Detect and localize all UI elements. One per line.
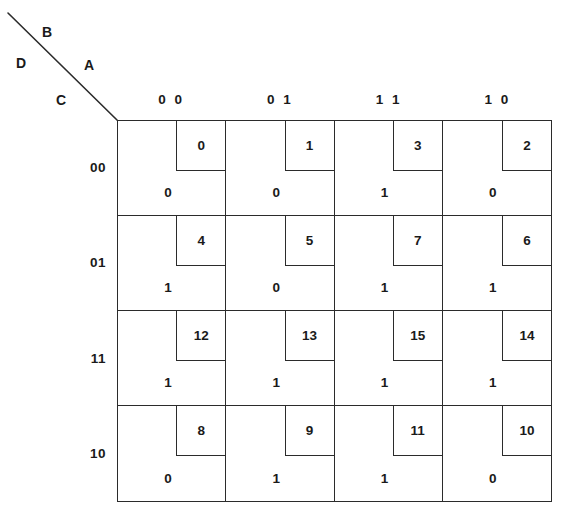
minterm-index-0: 0 (197, 139, 205, 153)
kmap-cell-11[interactable]: 111 (335, 406, 443, 501)
row-header-0: 00 (58, 161, 106, 175)
minterm-index-5: 5 (306, 234, 314, 248)
minterm-box-3: 3 (393, 121, 442, 171)
kmap-cell-5[interactable]: 50 (226, 216, 334, 311)
karnaugh-grid: 00103120415071611211311511418091111100 (117, 120, 552, 502)
minterm-index-11: 11 (411, 424, 425, 438)
kmap-cell-1[interactable]: 10 (226, 121, 334, 216)
cell-value-8: 0 (118, 472, 218, 486)
variable-label-b: B (42, 25, 52, 39)
minterm-index-1: 1 (306, 139, 314, 153)
minterm-box-4: 4 (176, 216, 225, 266)
minterm-index-15: 15 (410, 329, 425, 343)
kmap-cell-7[interactable]: 71 (335, 216, 443, 311)
karnaugh-map-page: B D A C 0 00 11 11 0 00011110 0010312041… (0, 0, 561, 517)
minterm-index-13: 13 (302, 329, 317, 343)
kmap-cell-4[interactable]: 41 (118, 216, 226, 311)
cell-value-3: 1 (335, 186, 435, 200)
minterm-index-6: 6 (523, 234, 531, 248)
minterm-box-0: 0 (176, 121, 225, 171)
column-header-0: 0 0 (117, 93, 226, 107)
minterm-box-10: 10 (502, 406, 551, 456)
minterm-box-6: 6 (502, 216, 551, 266)
column-header-1: 0 1 (226, 93, 335, 107)
cell-value-5: 0 (226, 281, 326, 295)
kmap-cell-8[interactable]: 80 (118, 406, 226, 501)
minterm-box-1: 1 (285, 121, 334, 171)
minterm-box-14: 14 (502, 311, 551, 361)
cell-value-4: 1 (118, 281, 218, 295)
kmap-cell-12[interactable]: 121 (118, 311, 226, 406)
minterm-box-9: 9 (285, 406, 334, 456)
minterm-box-13: 13 (285, 311, 334, 361)
kmap-cell-6[interactable]: 61 (443, 216, 551, 311)
cell-value-1: 0 (226, 186, 326, 200)
variable-label-c: C (56, 93, 66, 107)
cell-value-6: 1 (443, 281, 543, 295)
corner-label-block: B D A C (0, 0, 130, 125)
row-header-2: 11 (58, 352, 106, 366)
variable-label-a: A (84, 58, 94, 72)
minterm-box-15: 15 (393, 311, 442, 361)
kmap-cell-2[interactable]: 20 (443, 121, 551, 216)
kmap-cell-9[interactable]: 91 (226, 406, 334, 501)
minterm-index-9: 9 (306, 424, 314, 438)
minterm-index-10: 10 (519, 424, 534, 438)
cell-value-14: 1 (443, 376, 543, 390)
minterm-index-4: 4 (197, 234, 205, 248)
minterm-box-2: 2 (502, 121, 551, 171)
kmap-cell-13[interactable]: 131 (226, 311, 334, 406)
column-header-2: 1 1 (335, 93, 444, 107)
kmap-cell-14[interactable]: 141 (443, 311, 551, 406)
cell-value-7: 1 (335, 281, 435, 295)
minterm-box-12: 12 (176, 311, 225, 361)
minterm-index-7: 7 (414, 234, 422, 248)
cell-value-9: 1 (226, 472, 326, 486)
cell-value-12: 1 (118, 376, 218, 390)
minterm-index-14: 14 (519, 329, 534, 343)
cell-value-0: 0 (118, 186, 218, 200)
minterm-box-5: 5 (285, 216, 334, 266)
kmap-cell-0[interactable]: 00 (118, 121, 226, 216)
column-header-3: 1 0 (443, 93, 552, 107)
row-header-3: 10 (58, 447, 106, 461)
minterm-box-7: 7 (393, 216, 442, 266)
cell-value-2: 0 (443, 186, 543, 200)
cell-value-15: 1 (335, 376, 435, 390)
minterm-index-12: 12 (194, 329, 209, 343)
kmap-cell-15[interactable]: 151 (335, 311, 443, 406)
kmap-cell-10[interactable]: 100 (443, 406, 551, 501)
kmap-cell-3[interactable]: 31 (335, 121, 443, 216)
cell-value-13: 1 (226, 376, 326, 390)
cell-value-10: 0 (443, 472, 543, 486)
variable-label-d: D (16, 56, 26, 70)
row-header-1: 01 (58, 256, 106, 270)
minterm-index-8: 8 (197, 424, 205, 438)
minterm-box-8: 8 (176, 406, 225, 456)
minterm-box-11: 11 (393, 406, 442, 456)
cell-value-11: 1 (335, 472, 435, 486)
minterm-index-3: 3 (414, 139, 422, 153)
minterm-index-2: 2 (523, 139, 531, 153)
